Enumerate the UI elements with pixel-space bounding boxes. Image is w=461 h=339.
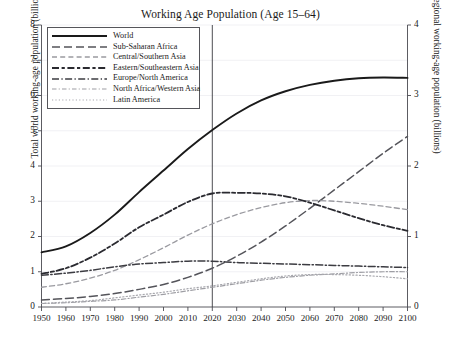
legend-item: Sub-Saharan Africa [51,42,196,53]
series-line-latin-america [42,274,408,303]
y-axis-label-right: Regional working-age population (billion… [428,0,442,193]
y-tick-right-4: 4 [414,19,419,29]
y-tick-left-5: 5 [0,125,35,135]
y-tick-right-3: 3 [414,89,419,99]
y-tick-left-0: 0 [0,301,35,311]
legend-line-swatch [51,42,108,52]
legend-line-swatch [51,31,108,41]
legend-item: Europe/North America [51,73,196,84]
legend-label: World [108,31,133,42]
y-tick-right-2: 2 [414,160,419,170]
legend-line-swatch [51,63,108,73]
legend-label: Sub-Saharan Africa [108,42,177,53]
legend-item: Central/Southern Asia [51,52,196,63]
legend-item: World [51,31,196,42]
y-tick-right-1: 1 [414,230,419,240]
y-tick-left-2: 2 [0,230,35,240]
legend-line-swatch [51,84,108,94]
legend-label: Europe/North America [108,73,188,84]
legend-label: Eastern/Southeastern Asia [108,63,199,74]
y-tick-left-4: 4 [0,160,35,170]
y-tick-left-6: 6 [0,89,35,99]
x-tick-2100: 2100 [391,313,425,323]
legend-line-swatch [51,52,108,62]
y-tick-left-1: 1 [0,266,35,276]
y-tick-right-0: 0 [414,301,419,311]
data-series-layer [42,78,408,304]
legend-label: Central/Southern Asia [108,52,186,63]
legend-line-swatch [51,74,108,84]
series-line-central-southern-asia [42,200,408,287]
legend-label: Latin America [108,95,160,106]
legend-label: North Africa/Western Asia [108,84,200,95]
legend: WorldSub-Saharan AfricaCentral/Southern … [47,27,200,109]
legend-item: Latin America [51,95,196,106]
y-tick-left-3: 3 [0,195,35,205]
chart-figure: Working Age Population (Age 15–64) Total… [0,0,461,339]
y-tick-left-7: 7 [0,54,35,64]
y-tick-left-8: 8 [0,19,35,29]
legend-item: North Africa/Western Asia [51,84,196,95]
legend-line-swatch [51,95,108,105]
legend-item: Eastern/Southeastern Asia [51,63,196,74]
series-line-north-africa-western-asia [42,272,408,304]
